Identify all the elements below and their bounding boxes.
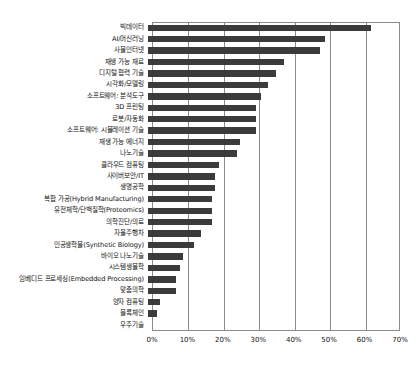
category-label: 3D 프린팅	[0, 104, 148, 111]
bar	[148, 150, 237, 156]
category-label: AI/머신러닝	[0, 36, 148, 43]
bar	[148, 230, 201, 236]
bar-track	[148, 79, 420, 90]
horizontal-bar-chart: 빅데이터AI/머신러닝사물인터넷재생 가능 재료디지털 협력 기술시각화/모델링…	[0, 0, 420, 371]
bar	[148, 82, 268, 88]
bar-track	[148, 33, 420, 44]
bar-track	[148, 148, 420, 159]
x-tick-label: 20%	[215, 336, 231, 344]
category-label: 나노기술	[0, 150, 148, 157]
bar	[148, 139, 240, 145]
bar-track	[148, 159, 420, 170]
category-label: 클라우드 컴퓨팅	[0, 162, 148, 169]
bar-row: 사물인터넷	[0, 45, 420, 56]
bar-track	[148, 68, 420, 79]
bar-track	[148, 274, 420, 285]
bar-track	[148, 125, 420, 136]
bar	[148, 162, 219, 168]
bar-row: 자율주행차	[0, 228, 420, 239]
x-tick-label: 50%	[321, 336, 337, 344]
bar-track	[148, 285, 420, 296]
bar	[148, 59, 284, 65]
bar-track	[148, 308, 420, 319]
bar-rows: 빅데이터AI/머신러닝사물인터넷재생 가능 재료디지털 협력 기술시각화/모델링…	[0, 22, 420, 331]
category-label: 양자 컴퓨팅	[0, 299, 148, 306]
category-label: 빅데이터	[0, 24, 148, 31]
bar-row: 유전체학/단백질학(Proteomics)	[0, 205, 420, 216]
bar-row: 시스템생물학	[0, 262, 420, 273]
category-label: 디지털 협력 기술	[0, 70, 148, 77]
category-label: 재생 가능 재료	[0, 59, 148, 66]
category-label: 시스템생물학	[0, 264, 148, 271]
bar-row: 사이버보안/IT	[0, 171, 420, 182]
bar-row: 로봇/자동화	[0, 114, 420, 125]
bar	[148, 288, 176, 294]
bar-track	[148, 262, 420, 273]
bar-track	[148, 228, 420, 239]
bar-track	[148, 114, 420, 125]
bar	[148, 196, 212, 202]
category-label: 시각화/모델링	[0, 81, 148, 88]
bar-track	[148, 136, 420, 147]
bar-track	[148, 45, 420, 56]
bar-row: 우주기술	[0, 319, 420, 330]
bar-row: 나노기술	[0, 148, 420, 159]
bar-row: 재생 가능 재료	[0, 56, 420, 67]
category-label: 임베디드 프로세싱(Embedded Processing)	[0, 276, 148, 283]
category-label: 맞춤의학	[0, 287, 148, 294]
bar-track	[148, 22, 420, 33]
bar	[148, 219, 212, 225]
bar-row: 복합 가공(Hybrid Manufacturing)	[0, 194, 420, 205]
bar-row: 재생 가능 에너지	[0, 136, 420, 147]
bar	[148, 185, 215, 191]
category-label: 바이오 나노기술	[0, 253, 148, 260]
bar-row: 소프트웨어: 분석도구	[0, 91, 420, 102]
category-label: 재생 가능 에너지	[0, 139, 148, 146]
bar	[148, 127, 256, 133]
bar-track	[148, 194, 420, 205]
category-label: 자율주행차	[0, 230, 148, 237]
category-label: 생명공학	[0, 184, 148, 191]
bar	[148, 265, 180, 271]
x-tick-label: 60%	[357, 336, 373, 344]
bar-track	[148, 239, 420, 250]
bar-row: 시각화/모델링	[0, 79, 420, 90]
category-label: 의학진단/의료	[0, 219, 148, 226]
bar-track	[148, 297, 420, 308]
bar	[148, 173, 215, 179]
x-tick-label: 40%	[286, 336, 302, 344]
category-label: 유전체학/단백질학(Proteomics)	[0, 207, 148, 214]
bar-row: 3D 프린팅	[0, 102, 420, 113]
bar-row: 양자 컴퓨팅	[0, 297, 420, 308]
x-tick-label: 10%	[180, 336, 196, 344]
category-label: 소프트웨어: 분석도구	[0, 93, 148, 100]
bar-row: 생명공학	[0, 182, 420, 193]
bar-row: 임베디드 프로세싱(Embedded Processing)	[0, 274, 420, 285]
x-tick-label: 0%	[146, 336, 157, 344]
bar	[148, 242, 194, 248]
bar	[148, 310, 157, 316]
bar	[148, 105, 256, 111]
bar-track	[148, 205, 420, 216]
bar-row: AI/머신러닝	[0, 33, 420, 44]
category-label: 복합 가공(Hybrid Manufacturing)	[0, 196, 148, 203]
bar	[148, 70, 276, 76]
bar-row: 인공생학물(Synthetic Biology)	[0, 239, 420, 250]
bar-row: 디지털 협력 기술	[0, 68, 420, 79]
bar	[148, 116, 256, 122]
bar	[148, 299, 160, 305]
category-label: 우주기술	[0, 322, 148, 329]
bar-row: 블록체인	[0, 308, 420, 319]
bar-track	[148, 251, 420, 262]
bar	[148, 25, 371, 31]
category-label: 인공생학물(Synthetic Biology)	[0, 242, 148, 249]
bar-track	[148, 216, 420, 227]
x-tick-label: 70%	[392, 336, 408, 344]
bar-row: 의학진단/의료	[0, 216, 420, 227]
bar	[148, 36, 325, 42]
bar	[148, 47, 320, 53]
bar	[148, 208, 212, 214]
bar	[148, 253, 183, 259]
bar-track	[148, 182, 420, 193]
bar-track	[148, 102, 420, 113]
